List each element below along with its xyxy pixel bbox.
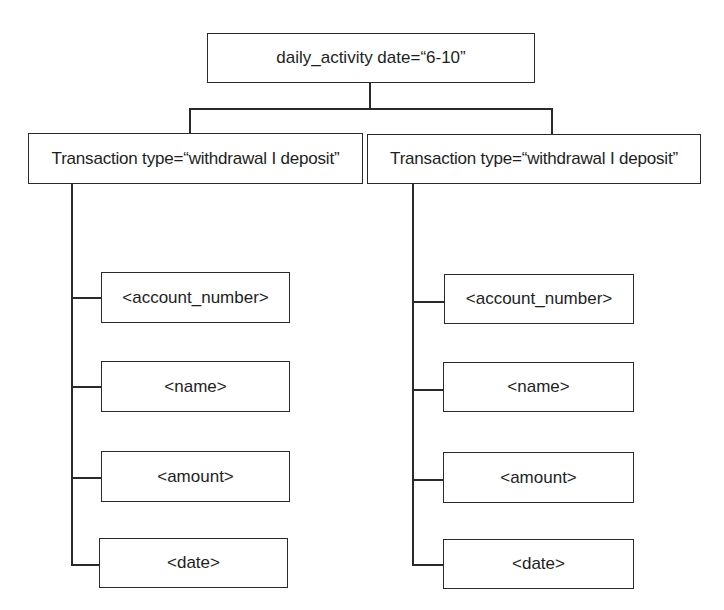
left-leaf-amount: <amount> <box>101 451 290 502</box>
left-connector-amount <box>71 477 102 479</box>
left-connector-date <box>71 564 100 566</box>
right-leaf-amount: <amount> <box>443 452 634 503</box>
right-connector-amount <box>412 479 444 481</box>
left-leaf-account-number: <account_number> <box>101 272 290 323</box>
left-connector-name <box>71 386 102 388</box>
right-connector-date <box>412 564 444 566</box>
leaf-label: <name> <box>507 377 569 397</box>
leaf-label: <amount> <box>157 467 234 487</box>
right-connector-account-number <box>412 301 445 303</box>
transaction-node-right: Transaction type=“withdrawal I deposit” <box>367 134 701 184</box>
transaction-node-left: Transaction type=“withdrawal I deposit” <box>28 133 363 184</box>
right-leaf-account-number: <account_number> <box>444 274 634 324</box>
transaction-node-label: Transaction type=“withdrawal I deposit” <box>390 149 678 169</box>
branch-connector-left-down <box>189 108 191 134</box>
leaf-label: <amount> <box>500 468 577 488</box>
right-branch-spine <box>412 183 414 566</box>
right-leaf-name: <name> <box>443 362 634 412</box>
left-leaf-date: <date> <box>99 538 288 588</box>
leaf-label: <account_number> <box>122 288 269 308</box>
root-node-label: daily_activity date=“6-10” <box>276 48 465 68</box>
leaf-label: <date> <box>512 554 565 574</box>
left-connector-account-number <box>71 297 102 299</box>
branch-connector-right-down <box>551 108 553 134</box>
leaf-label: <date> <box>167 553 220 573</box>
root-connector-down <box>369 82 371 110</box>
right-connector-name <box>412 389 444 391</box>
leaf-label: <account_number> <box>466 289 613 309</box>
right-leaf-date: <date> <box>443 539 634 589</box>
root-node-daily-activity: daily_activity date=“6-10” <box>207 33 535 83</box>
branch-connector-horizontal <box>189 108 553 110</box>
left-leaf-name: <name> <box>101 361 290 412</box>
transaction-node-label: Transaction type=“withdrawal I deposit” <box>52 149 340 169</box>
leaf-label: <name> <box>164 377 226 397</box>
left-branch-spine <box>71 183 73 566</box>
